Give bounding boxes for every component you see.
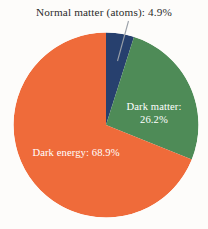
dark-matter-label-line-2: 26.2% bbox=[112, 113, 196, 126]
pie-chart-figure: Normal matter (atoms): 4.9% Dark matter:… bbox=[0, 0, 208, 229]
dark-matter-label-line-1: Dark matter: bbox=[112, 100, 196, 113]
dark-matter-slice-label: Dark matter: 26.2% bbox=[112, 100, 196, 126]
normal-matter-callout-label: Normal matter (atoms): 4.9% bbox=[0, 5, 208, 19]
dark-energy-slice-label: Dark energy: 68.9% bbox=[8, 146, 144, 159]
